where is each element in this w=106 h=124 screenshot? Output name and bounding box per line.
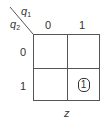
output-label: z (64, 107, 70, 119)
cell-r1-c1: 1 (67, 68, 100, 101)
cell-r0-c1 (67, 35, 100, 68)
row-header-0: 0 (20, 47, 26, 58)
kmap-grid: 1 (33, 34, 100, 101)
column-header-1: 1 (79, 20, 85, 31)
row-variable-label: q2 (10, 18, 20, 31)
cell-r0-c0 (34, 35, 67, 68)
cell-r1-c0 (34, 68, 67, 101)
column-variable-label: q1 (21, 5, 31, 18)
row-variable-subscript: 2 (16, 24, 20, 31)
column-variable-subscript: 1 (27, 11, 31, 18)
grouping-loop: 1 (78, 78, 90, 92)
row-header-1: 1 (20, 81, 26, 92)
column-header-0: 0 (45, 20, 51, 31)
cell-value: 1 (81, 79, 87, 90)
